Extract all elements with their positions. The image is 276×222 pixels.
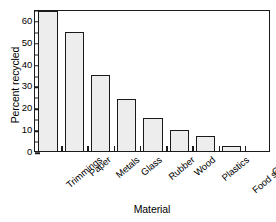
x-tick-label: Glass: [139, 154, 164, 178]
plot-area: [34, 10, 270, 152]
y-tick-label: 0: [18, 147, 32, 157]
x-tick-label-text: Plastics: [219, 154, 251, 183]
x-tick-label: Paper: [86, 154, 112, 178]
x-tick-label: Wood: [191, 154, 217, 178]
bar: [196, 136, 215, 151]
bar: [91, 75, 110, 151]
bar: [222, 146, 241, 151]
y-axis-tick-labels: 0102030405060: [18, 10, 32, 152]
bar: [143, 118, 162, 151]
x-axis-tick-labels: TrimmingsPaperMetalsGlassRubberWoodPlast…: [34, 154, 270, 200]
y-tick-label: 50: [18, 38, 32, 48]
y-tick-label: 40: [18, 60, 32, 70]
x-tick-label-text: Paper: [86, 154, 112, 178]
bar: [117, 99, 136, 151]
x-tick-label-text: Glass: [139, 154, 164, 178]
y-tick-label: 30: [18, 82, 32, 92]
y-tick-label: 10: [18, 125, 32, 135]
y-tick-label: 20: [18, 104, 32, 114]
x-tick-label: Food scraps: [250, 154, 276, 195]
bar: [65, 32, 84, 151]
x-axis-title: Material: [34, 203, 270, 216]
bar: [38, 11, 57, 151]
x-tick-label-text: Food scraps: [250, 154, 276, 195]
y-tick-label: 60: [18, 16, 32, 26]
x-tick-label-text: Wood: [191, 154, 217, 178]
bar: [170, 130, 189, 151]
bar-series: [35, 11, 269, 151]
x-tick-label: Plastics: [219, 154, 251, 183]
x-tick-label-text: Metals: [113, 154, 141, 180]
bar-chart-figure: Percent recycled 0102030405060 Trimmings…: [0, 0, 276, 222]
x-tick-label: Metals: [113, 154, 141, 180]
